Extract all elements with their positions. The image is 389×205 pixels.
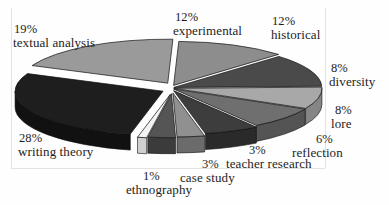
slice-percent-case-study: 3% — [202, 157, 235, 171]
slice-name-ethnography: ethnography — [126, 183, 192, 198]
slice-percent-diversity: 8% — [331, 61, 375, 75]
slice-percent-reflection: 6% — [316, 132, 343, 146]
slice-name-experimental: experimental — [173, 24, 242, 39]
slice-percent-writing-theory: 28% — [19, 131, 93, 145]
slice-name-historical: historical — [271, 28, 320, 43]
slice-label-ethnography: 1% ethnography — [126, 169, 192, 198]
pie-slice-side-ethnography — [137, 137, 146, 154]
slice-percent-experimental: 12% — [175, 10, 242, 24]
slice-name-teacher-research: teacher research — [226, 157, 312, 172]
slice-label-lore: 8% lore — [331, 103, 352, 132]
slice-name-lore: lore — [331, 117, 352, 132]
slice-label-teacher-research: 3% teacher research — [226, 143, 312, 172]
slice-name-diversity: diversity — [329, 75, 375, 90]
slice-percent-teacher-research: 3% — [249, 143, 312, 157]
slice-label-textual-analysis: 19% textual analysis — [13, 22, 95, 51]
slice-percent-textual-analysis: 19% — [14, 22, 95, 36]
slice-percent-lore: 8% — [335, 103, 352, 117]
slice-label-historical: 12% historical — [271, 14, 320, 43]
pie-chart-figure: 19% textual analysis 12% experimental 12… — [0, 0, 389, 205]
pie-slice-side-case-study — [148, 137, 176, 154]
slice-name-textual-analysis: textual analysis — [13, 36, 95, 51]
slice-name-writing-theory: writing theory — [18, 145, 93, 160]
slice-label-diversity: 8% diversity — [329, 61, 375, 90]
slice-percent-historical: 12% — [272, 14, 320, 28]
slice-label-writing-theory: 28% writing theory — [18, 131, 93, 160]
slice-percent-ethnography: 1% — [143, 169, 192, 183]
slice-label-experimental: 12% experimental — [173, 10, 242, 39]
pie-slice-side-teacher-research — [177, 136, 205, 153]
